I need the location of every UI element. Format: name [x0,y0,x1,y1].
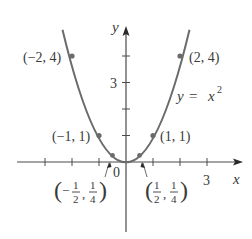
point-1-1 [150,133,155,138]
parabola-chart: y x 0 3 3 (−2, 4) (2, 4) (−1, 1) (1, 1) … [0,0,252,239]
leader-line-neg-half [105,163,109,177]
svg-text:(: ( [54,177,62,203]
label-point-half-quarter: ( 1 2 , 1 4 ) [145,177,188,205]
x-axis-label: x [232,171,240,187]
point-2-4 [177,53,182,58]
label-point-neg1-1: (−1, 1) [52,129,91,145]
svg-text:=: = [189,88,197,104]
point-neg1-1 [96,133,101,138]
svg-text:2: 2 [154,193,160,205]
label-point-2-4: (2, 4) [189,50,220,66]
svg-text:,: , [163,186,166,201]
svg-text:y: y [175,88,184,104]
svg-text:1: 1 [90,179,96,191]
label-point-neg2-4: (−2, 4) [23,50,62,66]
point-neg-half-quarter [110,153,115,158]
label-point-neg-half-quarter: ( − 1 2 , 1 4 ) [54,177,107,205]
curve-equation-label: y = x 2 [175,84,222,104]
leader-arrow-neg-half-icon [107,162,112,168]
svg-text:): ) [99,177,107,203]
svg-text:): ) [180,177,188,203]
y-tick-label-3: 3 [110,76,117,91]
leader-line-half [143,163,147,177]
svg-text:1: 1 [171,179,177,191]
svg-text:2: 2 [73,193,79,205]
svg-text:2: 2 [217,84,222,95]
svg-text:x: x [207,88,215,104]
leader-arrow-half-icon [141,162,146,168]
svg-text:−: − [62,183,69,198]
point-half-quarter [137,153,142,158]
svg-text:(: ( [145,177,153,203]
svg-text:4: 4 [90,193,96,205]
point-neg2-4 [69,53,74,58]
origin-label: 0 [113,165,120,180]
svg-text:,: , [82,186,85,201]
x-tick-label-3: 3 [203,173,210,188]
y-axis-label: y [110,19,119,35]
label-point-1-1: (1, 1) [160,129,191,145]
svg-text:4: 4 [171,193,177,205]
svg-text:1: 1 [73,179,79,191]
svg-text:1: 1 [154,179,160,191]
